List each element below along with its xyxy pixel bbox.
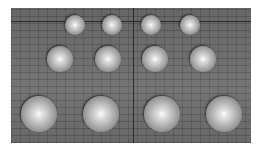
sphere [65,15,85,35]
sphere [190,46,216,72]
sphere [144,96,180,132]
sphere [206,96,242,132]
sphere [95,46,121,72]
render-viewport [11,8,251,143]
sphere [47,46,73,72]
sphere [142,46,168,72]
sphere [21,96,57,132]
sphere [180,15,200,35]
sphere [102,15,122,35]
sphere [141,15,161,35]
vertical-axis-line [133,8,134,143]
sphere [83,96,119,132]
horizontal-axis-line [11,21,251,22]
